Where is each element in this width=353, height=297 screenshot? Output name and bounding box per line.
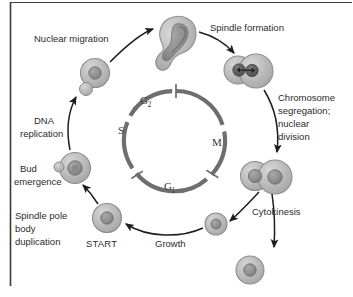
nucleus-detached (244, 264, 256, 276)
label-dna-replication-line1: DNA (34, 115, 55, 126)
label-growth: Growth (155, 238, 186, 249)
cell-spindle-formation (224, 54, 273, 88)
nucleus-daughter (211, 219, 221, 229)
cell-post-division-pair (241, 160, 293, 194)
label-spindle-pole-body-duplication-line1: Spindle pole (15, 210, 67, 221)
label-spindle-formation: Spindle formation (210, 22, 284, 33)
nucleus-dna-replication (89, 67, 101, 79)
label-chromosome-segregation-line2: segregation; (278, 105, 330, 116)
cell-detached-daughter (236, 256, 264, 284)
label-spindle-pole-body-duplication-line2: body (15, 223, 36, 234)
nucleus-pair-right (268, 170, 282, 184)
label-spindle-pole-body-duplication-line3: duplication (15, 236, 60, 247)
label-bud-emergence-line1: Bud (20, 163, 37, 174)
cell-start (93, 204, 122, 233)
ring-label-g2-subscript: 2 (148, 100, 152, 109)
cell-cycle-diagram: G 2 M G 1 S (0, 0, 353, 297)
ring-label-m: M (212, 136, 222, 148)
small-bud (80, 83, 93, 96)
nucleus-pair-left (248, 169, 261, 182)
emerging-bud (54, 162, 64, 172)
label-bud-emergence-line2: emergence (14, 176, 62, 187)
label-chromosome-segregation-line4: division (278, 131, 310, 142)
label-cytokinesis: Cytokinesis (252, 206, 301, 217)
nucleus-start (101, 212, 113, 224)
nucleolus-bud-emergence (72, 165, 78, 171)
label-dna-replication-line2: replication (20, 128, 63, 139)
cell-cycle-figure: G 2 M G 1 S (0, 0, 353, 297)
ring-label-g1-subscript: 1 (172, 186, 176, 195)
label-chromosome-segregation-line3: nuclear (278, 118, 309, 129)
ring-label-s: S (118, 124, 124, 136)
label-start: START (86, 238, 117, 249)
cell-daughter-single (205, 213, 227, 235)
label-chromosome-segregation-line1: Chromosome (278, 92, 335, 103)
label-nuclear-migration: Nuclear migration (34, 33, 108, 44)
